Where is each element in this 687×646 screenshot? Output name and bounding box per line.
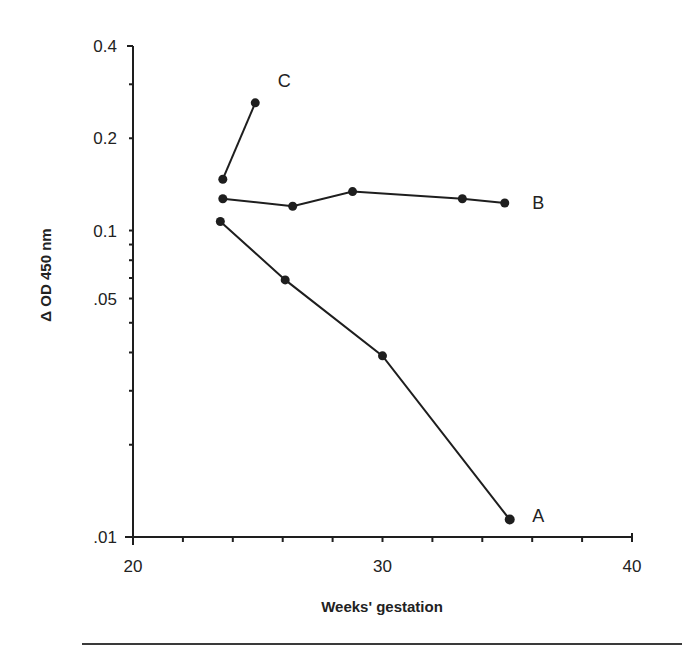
series-b: B (218, 187, 544, 213)
data-point-marker (505, 515, 515, 525)
series-line (223, 103, 256, 179)
y-tick-label: 0.4 (93, 37, 117, 56)
gestation-od-chart: 0.40.20.1.05.01 203040 ABC Weeks' gestat… (0, 0, 687, 646)
data-point-marker (216, 217, 225, 226)
data-point-marker (251, 98, 260, 107)
data-point-marker (288, 202, 297, 211)
y-tick-label: 0.1 (93, 222, 117, 241)
axes: 0.40.20.1.05.01 203040 (93, 37, 641, 576)
data-point-marker (458, 194, 467, 203)
y-axis-title: Δ OD 450 nm (37, 228, 54, 321)
series-layer: ABC (216, 71, 544, 526)
data-point-marker (378, 351, 387, 360)
data-point-marker (218, 194, 227, 203)
data-point-marker (348, 187, 357, 196)
y-axis-ticks: 0.40.20.1.05.01 (93, 37, 133, 547)
x-tick-label: 20 (124, 557, 143, 576)
x-axis-ticks: 203040 (124, 533, 642, 576)
series-c: C (218, 71, 290, 184)
series-a: A (216, 217, 544, 526)
data-point-marker (281, 275, 290, 284)
series-label-b: B (532, 193, 544, 213)
x-tick-label: 30 (373, 557, 392, 576)
series-label-c: C (278, 71, 291, 91)
y-tick-label: .05 (93, 290, 117, 309)
y-tick-label: 0.2 (93, 129, 117, 148)
series-line (220, 222, 509, 520)
series-label-a: A (532, 506, 544, 526)
data-point-marker (218, 175, 227, 184)
y-tick-label: .01 (93, 528, 117, 547)
x-tick-label: 40 (623, 557, 642, 576)
x-axis-title: Weeks' gestation (321, 598, 443, 615)
data-point-marker (500, 198, 509, 207)
